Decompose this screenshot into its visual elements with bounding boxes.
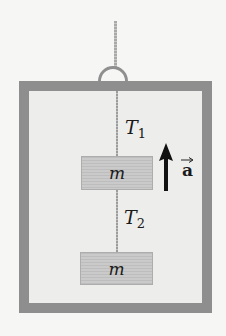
upper-string bbox=[116, 91, 118, 156]
acceleration-label: a bbox=[180, 158, 194, 180]
tension-label-upper: T1 bbox=[125, 118, 146, 140]
lower-mass-block: m bbox=[80, 252, 153, 285]
acceleration-arrow-icon bbox=[158, 143, 174, 191]
tension-label-lower: T2 bbox=[124, 208, 145, 230]
upper-mass-block: m bbox=[81, 156, 153, 190]
lower-string bbox=[116, 190, 118, 252]
suspension-rope bbox=[114, 21, 117, 69]
upper-mass-label: m bbox=[109, 163, 125, 183]
lower-mass-label: m bbox=[108, 259, 124, 279]
